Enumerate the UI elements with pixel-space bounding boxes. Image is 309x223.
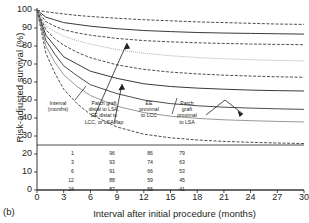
table-cell: 59 [131,177,153,183]
x-tick-6: 6 [80,192,100,202]
table-row-label: 3 [52,159,74,165]
y-tick-90: 90 [6,22,32,32]
curve-7 [37,10,304,122]
curve-2 [37,10,304,45]
y-tick-40: 40 [6,112,32,122]
table-cell: 66 [131,168,153,174]
y-tick-50: 50 [6,94,32,104]
y-tick-20: 20 [6,148,32,158]
figure-panel-b: Risk-adjusted survival (%) Interval afte… [0,0,309,223]
x-axis-label: Interval after initial procedure (months… [40,208,309,219]
curve-1 [37,10,304,34]
annotation-interval-header: Interval (months) [41,100,75,112]
table-row-label: 12 [52,177,74,183]
x-tick-0: 0 [27,192,47,202]
table-cell: 87 [93,186,115,192]
table-cell: 79 [163,150,185,156]
annotation-group-2: EE proximal to LCC [133,100,165,119]
y-tick-80: 80 [6,40,32,50]
y-tick-70: 70 [6,58,32,68]
table-cell: 88 [93,177,115,183]
y-tick-30: 30 [6,130,32,140]
x-tick-12: 12 [134,192,154,202]
x-tick-3: 3 [54,192,74,202]
table-cell: 63 [163,159,185,165]
table-row-label: 24 [52,186,74,192]
chart-curves [37,10,304,144]
x-tick-27: 27 [267,192,287,202]
table-row-label: 6 [52,168,74,174]
panel-letter: (b) [3,206,15,217]
curve-5 [37,10,304,91]
curve-4 [37,10,304,77]
curve-0 [37,10,304,24]
y-tick-100: 100 [6,4,32,14]
table-cell: 53 [163,168,185,174]
table-row-label: 1 [52,150,74,156]
x-tick-18: 18 [187,192,207,202]
table-cell: 74 [131,159,153,165]
x-tick-15: 15 [161,192,181,202]
x-tick-30: 30 [294,192,309,202]
y-tick-60: 60 [6,76,32,86]
table-cell: 86 [131,150,153,156]
x-tick-9: 9 [107,192,127,202]
annotation-group-1: Patch graft distal to LSA, EE distal to … [79,100,129,125]
table-cell: 93 [93,159,115,165]
table-cell: 91 [93,168,115,174]
table-cell: 56 [131,186,153,192]
table-cell: 45 [163,177,185,183]
annotation-group-3: Patch graft proximal to LSA [172,100,202,125]
y-tick-10: 10 [6,166,32,176]
x-tick-24: 24 [241,192,261,202]
table-cell: 41 [163,186,185,192]
curve-3 [37,10,304,61]
x-tick-21: 21 [214,192,234,202]
table-cell: 96 [93,150,115,156]
y-axis-label: Risk-adjusted survival (%) [14,13,25,163]
